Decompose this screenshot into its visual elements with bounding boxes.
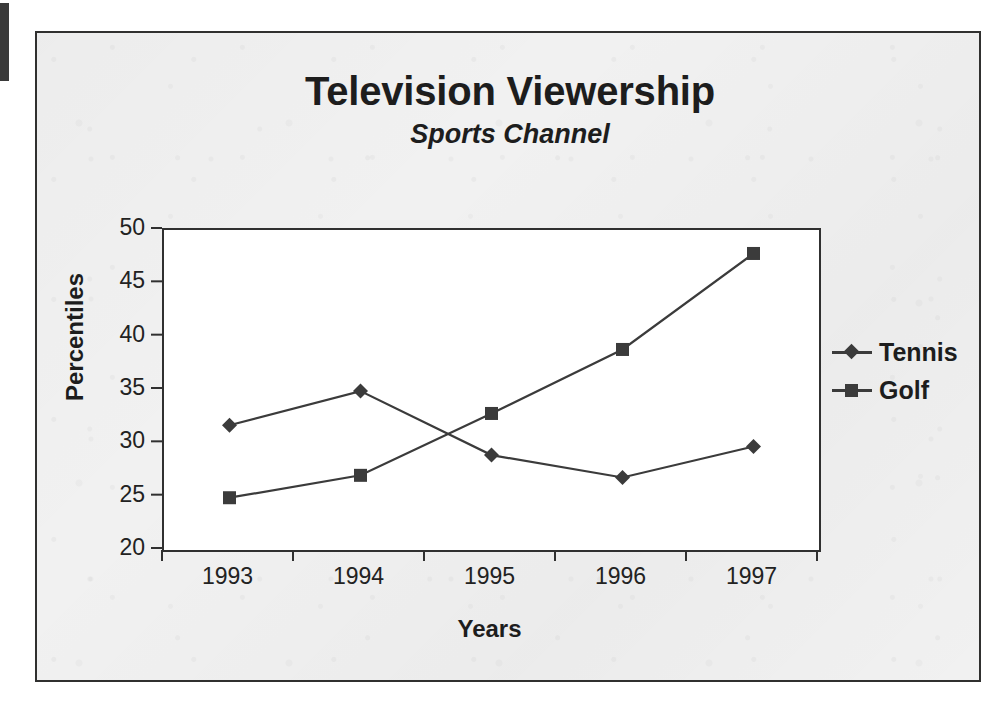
x-tick-label: 1996: [555, 565, 686, 588]
series-lines: [164, 230, 819, 550]
data-point-golf-1996: [616, 343, 629, 356]
legend-marker-glyph: [844, 344, 860, 360]
x-tick-label: 1994: [293, 565, 424, 588]
data-point-tennis-1997: [746, 439, 761, 454]
x-axis-tick-labels: 19931994199519961997: [162, 565, 817, 599]
legend-marker-square-icon: [832, 380, 872, 400]
chart-legend: TennisGolf: [832, 333, 958, 409]
scan-artifact: [0, 3, 9, 81]
data-point-golf-1997: [747, 247, 760, 260]
series-line-tennis: [230, 391, 754, 477]
data-point-tennis-1996: [615, 470, 630, 485]
data-point-tennis-1995: [484, 448, 499, 463]
data-point-tennis-1994: [353, 384, 368, 399]
legend-label: Tennis: [879, 338, 958, 367]
legend-item-golf: Golf: [832, 371, 958, 409]
data-point-golf-1994: [354, 469, 367, 482]
y-axis-title: Percentiles: [61, 257, 89, 417]
x-axis-title: Years: [162, 615, 817, 643]
x-tick-label: 1997: [686, 565, 817, 588]
chart-figure: Television Viewership Sports Channel 504…: [35, 31, 981, 682]
legend-item-tennis: Tennis: [832, 333, 958, 371]
x-tick-label: 1993: [162, 565, 293, 588]
legend-marker-diamond-icon: [832, 342, 872, 362]
data-point-tennis-1993: [222, 418, 237, 433]
scanned-page: Television Viewership Sports Channel 504…: [0, 0, 1007, 704]
legend-marker-glyph: [845, 384, 858, 397]
data-point-golf-1993: [223, 491, 236, 504]
data-point-golf-1995: [485, 407, 498, 420]
x-tick-label: 1995: [424, 565, 555, 588]
plot-area: [162, 228, 821, 552]
legend-label: Golf: [879, 376, 929, 405]
